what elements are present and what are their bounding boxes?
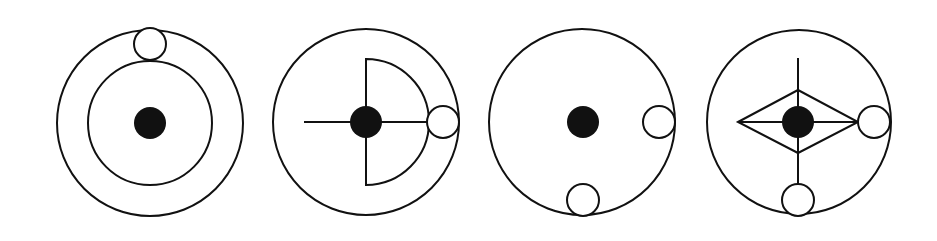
diagram-canvas	[0, 0, 937, 241]
figure-3-small-circle-right	[643, 106, 675, 138]
figure-4-small-circle-bottom	[782, 184, 814, 216]
figure-sequence	[0, 0, 937, 241]
figure-3	[489, 29, 675, 216]
figure-3-small-circle-bottom	[567, 184, 599, 216]
figure-4	[707, 30, 891, 216]
figure-2-center-dot	[350, 106, 382, 138]
figure-4-small-circle-right	[858, 106, 890, 138]
figure-2	[273, 29, 459, 215]
figure-4-center-dot	[782, 106, 814, 138]
figure-3-center-dot	[567, 106, 599, 138]
figure-1	[57, 28, 243, 216]
figure-1-small-circle-top	[134, 28, 166, 60]
figure-2-small-circle-right	[427, 106, 459, 138]
figure-1-center-dot	[134, 107, 166, 139]
